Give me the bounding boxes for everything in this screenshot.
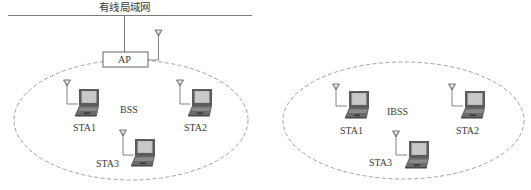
ibss-boundary	[283, 62, 524, 179]
bss-boundary	[14, 60, 248, 180]
bss-sta1-laptop-icon	[64, 80, 100, 117]
ibss-sta3-label: STA3	[369, 158, 392, 168]
ibss-sta1-label: STA1	[340, 126, 363, 136]
ibss-sta1-laptop-icon	[333, 84, 370, 119]
bss-sta2-label: STA2	[184, 123, 207, 133]
lan-title: 有线局域网	[99, 3, 151, 14]
bss-label: BSS	[120, 105, 138, 115]
ibss-sta2-laptop-icon	[449, 84, 486, 119]
bss-sta3-label: STA3	[96, 159, 119, 169]
ibss-sta2-label: STA2	[456, 126, 479, 136]
ap-label: AP	[118, 55, 131, 65]
ibss-label: IBSS	[387, 107, 408, 117]
network-diagram	[0, 0, 531, 190]
bss-sta3-laptop-icon	[120, 130, 156, 167]
ibss-sta3-laptop-icon	[393, 131, 430, 169]
bss-sta1-label: STA1	[73, 123, 96, 133]
bss-sta2-laptop-icon	[177, 80, 213, 117]
